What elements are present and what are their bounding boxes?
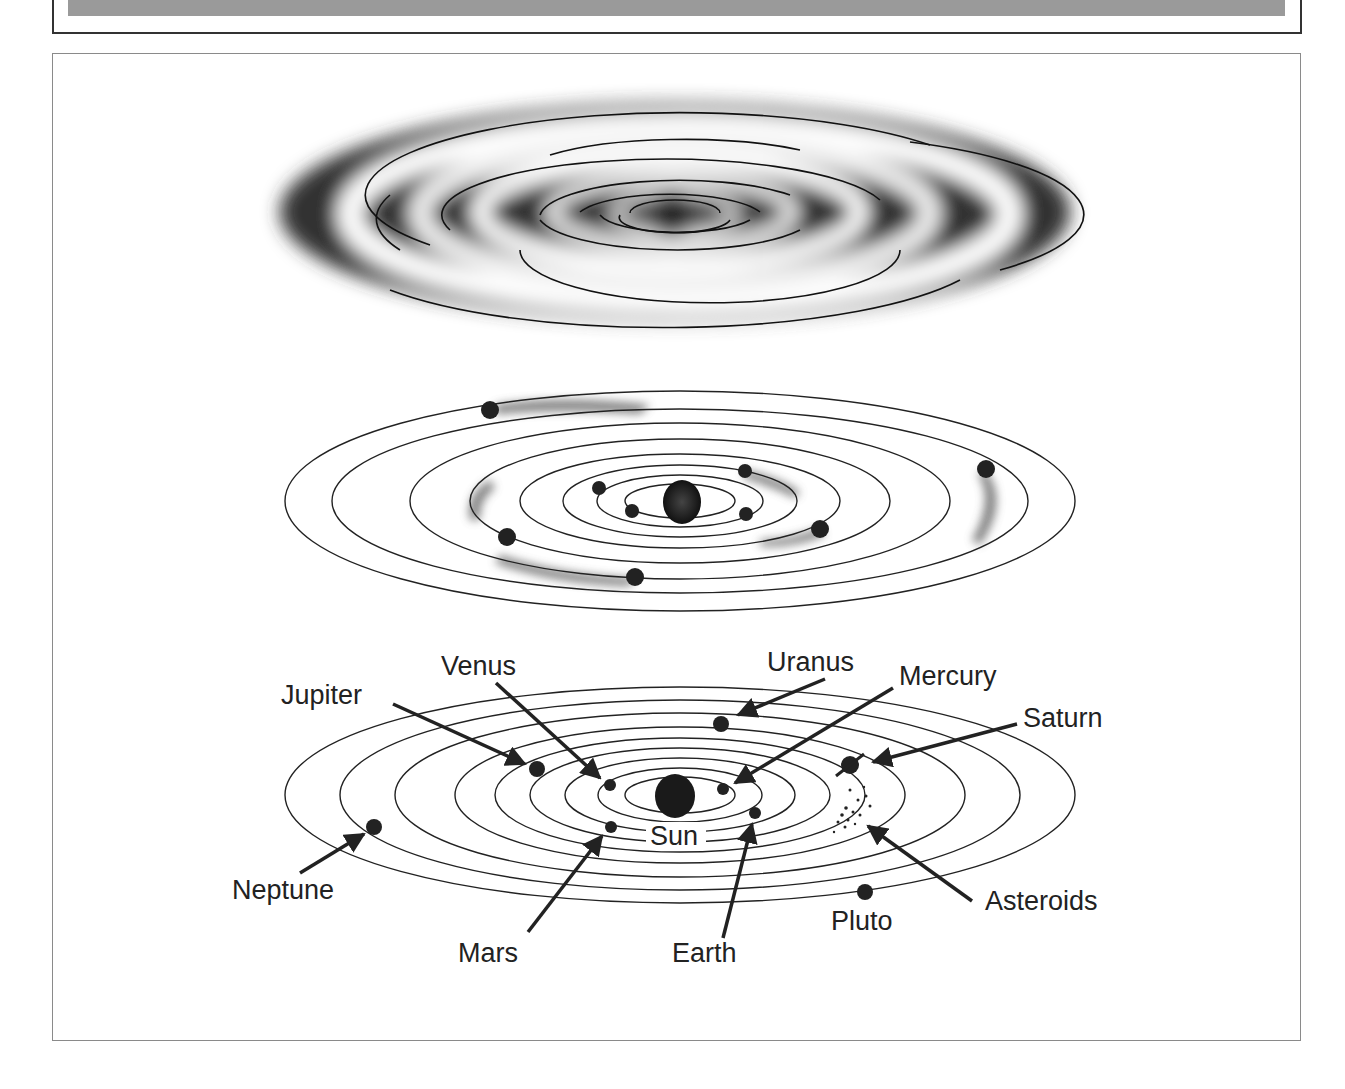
venus-icon bbox=[604, 779, 616, 791]
label-pluto: Pluto bbox=[831, 906, 893, 936]
saturn-icon bbox=[836, 754, 864, 776]
label-uranus: Uranus bbox=[767, 647, 854, 677]
label-mercury: Mercury bbox=[899, 661, 997, 691]
mercury-icon bbox=[717, 783, 729, 795]
label-earth: Earth bbox=[672, 938, 737, 968]
sun-icon bbox=[663, 480, 701, 524]
protoplanet-panel bbox=[285, 391, 1075, 611]
label-asteroids: Asteroids bbox=[985, 886, 1098, 916]
label-mars: Mars bbox=[458, 938, 518, 968]
solar-system-diagram: Jupiter Venus Uranus Mercury Saturn Sun … bbox=[0, 0, 1345, 1089]
sun-icon bbox=[655, 774, 695, 818]
pluto-icon bbox=[857, 884, 873, 900]
nebula-panel bbox=[280, 104, 1084, 328]
uranus-icon bbox=[713, 716, 729, 732]
label-saturn: Saturn bbox=[1023, 703, 1103, 733]
earth-icon bbox=[749, 807, 761, 819]
label-sun: Sun bbox=[650, 821, 698, 851]
label-neptune: Neptune bbox=[232, 875, 334, 905]
label-venus: Venus bbox=[441, 651, 516, 681]
label-jupiter: Jupiter bbox=[281, 680, 362, 710]
mars-icon bbox=[605, 821, 617, 833]
asteroid-belt bbox=[833, 786, 872, 833]
neptune-icon bbox=[366, 819, 382, 835]
jupiter-icon bbox=[529, 761, 545, 777]
labeled-solar-system-panel: Jupiter Venus Uranus Mercury Saturn Sun … bbox=[232, 647, 1103, 968]
